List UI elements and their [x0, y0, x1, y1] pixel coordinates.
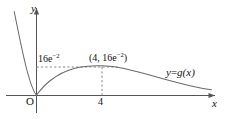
y-value-label: 16e−2 — [38, 53, 59, 64]
y-value-coefficient: 16e — [38, 53, 52, 64]
origin-label: O — [26, 96, 34, 107]
x-axis-label: x — [212, 98, 217, 109]
x-tick-label-4: 4 — [98, 97, 103, 107]
y-value-exponent: −2 — [52, 52, 59, 59]
curve-label: y=g(x) — [166, 67, 195, 78]
graph-figure: y x O 4 16e−2 (4, 16e−2) y=g(x) — [0, 0, 225, 119]
curve-label-arg: (x) — [183, 66, 195, 78]
point-label-exponent: −2 — [117, 51, 124, 58]
maximum-point-label: (4, 16e−2) — [89, 52, 127, 63]
point-label-close: ) — [124, 52, 127, 63]
y-axis-label: y — [31, 3, 36, 14]
point-label-open: (4, 16e — [89, 52, 117, 63]
